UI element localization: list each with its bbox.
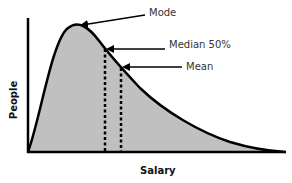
skewed-distribution-diagram: Mode Median 50% Mean Salary People: [0, 0, 292, 183]
median-label: Median 50%: [169, 40, 231, 50]
distribution-area: [28, 24, 285, 152]
mode-arrow: [82, 15, 145, 25]
mode-label: Mode: [149, 8, 176, 18]
mean-label: Mean: [186, 62, 213, 72]
y-axis-title: People: [9, 81, 19, 119]
x-axis-title: Salary: [140, 166, 176, 176]
distribution-plot: [0, 0, 292, 183]
